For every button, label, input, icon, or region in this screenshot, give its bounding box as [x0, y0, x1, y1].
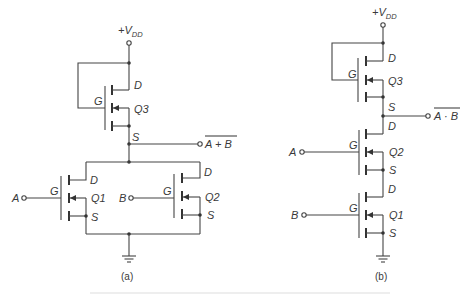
q2-name-label: Q2 [205, 191, 220, 203]
vdd-terminal-a [127, 41, 131, 45]
vdd-label-a: +VDD [118, 24, 143, 39]
q1-gate-label-b: G [349, 202, 358, 214]
panel-a-nor-gate: +VDD D G Q3 S A + B [11, 24, 237, 282]
q3-drain-label-b: D [388, 52, 396, 64]
vdd-terminal-b [381, 23, 385, 27]
output-terminal-a [198, 142, 202, 146]
body-arrow-icon [367, 212, 373, 218]
q3-name-label-b: Q3 [388, 75, 404, 87]
transistor-q3-a: D G Q3 S [78, 63, 150, 144]
q3-gate-label-b: G [348, 68, 357, 80]
q2-drain-label: D [204, 166, 212, 178]
q1-source-label-b: S [389, 227, 397, 239]
q2-source-label: S [207, 209, 215, 221]
q3-source-label-b: S [388, 101, 396, 113]
faint-figure-caption [90, 292, 390, 294]
q1-name-label: Q1 [91, 192, 106, 204]
caption-b: (b) [375, 271, 387, 282]
body-arrow-icon [183, 194, 189, 200]
q3-drain-label: D [134, 79, 142, 91]
body-arrow-icon [70, 195, 76, 201]
circuit-figure: +VDD D G Q3 S A + B [0, 0, 476, 300]
transistor-q1-a: A D G Q1 S [11, 162, 106, 234]
input-b-label-b: B [291, 209, 298, 221]
q2-gate-label-b: G [349, 139, 358, 151]
output-label-a: A + B [204, 138, 232, 150]
input-b-terminal-b [302, 213, 306, 217]
ground-icon [122, 256, 136, 262]
vdd-label-b: +VDD [372, 6, 397, 21]
q1-gate-label: G [50, 185, 59, 197]
input-a-terminal-a [22, 196, 26, 200]
q2-drain-label-b: D [388, 120, 396, 132]
input-b-label-a: B [119, 192, 126, 204]
q1-source-label: S [91, 211, 99, 223]
transistor-q2-b: A D G Q2 S [288, 120, 404, 197]
q2-gate-label: G [163, 185, 172, 197]
caption-a: (a) [121, 271, 133, 282]
q3-gate-label: G [94, 95, 103, 107]
ground-icon [376, 256, 390, 262]
body-arrow-icon [367, 149, 373, 155]
q2-name-label-b: Q2 [389, 146, 404, 158]
q3-name-label: Q3 [134, 103, 150, 115]
q1-name-label-b: Q1 [389, 209, 404, 221]
transistor-q1-b: B D G Q1 S [291, 183, 404, 256]
q2-source-label-b: S [389, 164, 397, 176]
input-a-label-b: A [288, 146, 296, 158]
input-a-label-a: A [11, 192, 19, 204]
input-a-terminal-b [300, 150, 304, 154]
q3-source-label: S [132, 131, 140, 143]
q1-drain-label-b: D [388, 183, 396, 195]
panel-b-nand-gate: +VDD D G Q3 S A · B [288, 6, 460, 282]
body-arrow-icon [113, 105, 119, 111]
transistor-q2-a: B D G Q2 S [119, 162, 220, 234]
output-terminal-b [426, 114, 430, 118]
body-arrow-icon [367, 77, 373, 83]
q1-drain-label: D [90, 174, 98, 186]
output-label-b: A · B [433, 110, 458, 122]
input-b-terminal-a [129, 196, 133, 200]
